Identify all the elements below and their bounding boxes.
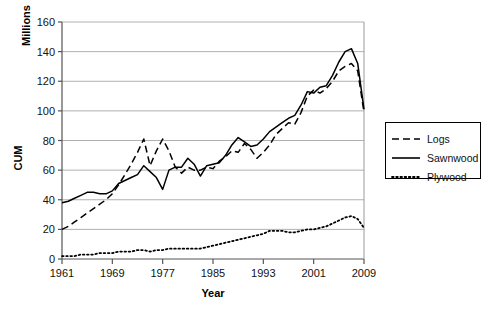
legend-label-sawnwood[interactable]: Sawnwood — [427, 152, 479, 164]
units-axis-label: Millions — [20, 5, 32, 46]
legend-label-plywood[interactable]: Plywood — [427, 171, 467, 183]
y-axis-title: CUM — [12, 145, 24, 170]
y-tick-label: 80 — [43, 135, 55, 147]
y-tick-label: 40 — [43, 194, 55, 206]
x-tick-label: 2001 — [301, 267, 325, 279]
y-tick-label: 20 — [43, 223, 55, 235]
x-tick-label: 1993 — [251, 267, 275, 279]
y-tick-label: 100 — [37, 105, 55, 117]
x-tick-label: 1969 — [100, 267, 124, 279]
chart-screenshot: 020406080100120140160 196119691977198519… — [0, 0, 490, 316]
x-tick-label: 1977 — [150, 267, 174, 279]
x-tick-label: 1985 — [201, 267, 225, 279]
y-tick-label: 0 — [49, 253, 55, 265]
y-tick-label: 120 — [37, 75, 55, 87]
y-tick-label: 140 — [37, 46, 55, 58]
chart-legend[interactable]: LogsSawnwoodPlywood — [386, 123, 481, 184]
x-tick-label: 2009 — [352, 267, 376, 279]
y-tick-label: 60 — [43, 164, 55, 176]
x-tick-label: 1961 — [50, 267, 74, 279]
x-axis-title: Year — [201, 287, 225, 299]
legend-label-logs[interactable]: Logs — [427, 133, 450, 145]
y-tick-label: 160 — [37, 16, 55, 28]
line-chart: 020406080100120140160 196119691977198519… — [0, 0, 490, 316]
